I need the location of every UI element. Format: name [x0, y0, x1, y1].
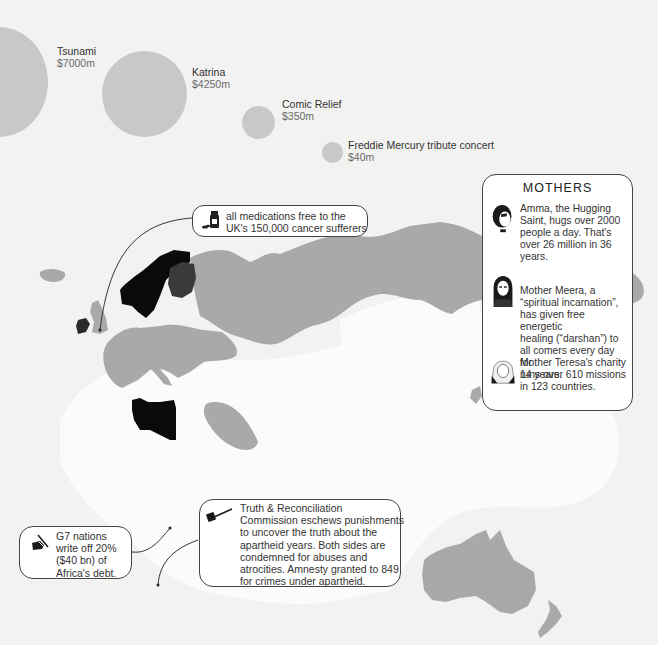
bubble-label-katrina: Katrina $4250m: [192, 66, 230, 90]
uk-connector-dot: [99, 329, 102, 332]
bubble-value: $7000m: [57, 57, 96, 69]
bubble-value: $40m: [348, 151, 494, 163]
mother-meera-portrait-icon: [489, 275, 517, 307]
bubble-label-tsunami: Tsunami $7000m: [57, 45, 96, 69]
mothers-panel: MOTHERS Amma, the Hugging Saint, hugs ov…: [482, 174, 633, 411]
bubble-label-comic-relief: Comic Relief $350m: [282, 98, 342, 122]
g7-connector-dot: [169, 527, 172, 530]
bubble-comic-relief: [242, 106, 275, 139]
uk-medication-text: all medications free to the UK's 150,000…: [226, 210, 367, 234]
bubble-freddie-mercury: [322, 142, 343, 163]
truth-connector-dot: [157, 584, 160, 587]
truth-reconciliation-callout: Truth & Reconciliation Commission eschew…: [199, 499, 401, 587]
mother-teresa-portrait-icon: [489, 355, 517, 387]
gavel-icon: [206, 507, 234, 523]
mother-text: Mother Teresa's charity runs over 610 mi…: [520, 357, 626, 393]
iceland: [40, 269, 66, 282]
bubble-value: $350m: [282, 110, 342, 122]
bubble-name: Katrina: [192, 66, 225, 78]
uk-medication-callout: all medications free to the UK's 150,000…: [192, 205, 368, 237]
medicine-bottle-icon: [201, 210, 221, 232]
mother-text: Amma, the Hugging Saint, hugs over 2000 …: [520, 203, 620, 263]
bubble-name: Comic Relief: [282, 98, 342, 110]
signing-hand-icon: [30, 533, 52, 553]
bubble-katrina: [102, 51, 187, 137]
finland: [168, 262, 196, 298]
ireland: [76, 318, 90, 334]
truth-reconciliation-text: Truth & Reconciliation Commission eschew…: [240, 502, 404, 587]
australia: [422, 530, 536, 614]
bubble-label-freddie-mercury: Freddie Mercury tribute concert $40m: [348, 139, 494, 163]
bubble-value: $4250m: [192, 78, 230, 90]
amma-portrait-icon: [489, 203, 517, 235]
mothers-title: MOTHERS: [483, 181, 632, 195]
bubble-name: Freddie Mercury tribute concert: [348, 139, 494, 151]
bubble-name: Tsunami: [57, 45, 96, 57]
g7-debt-text: G7 nations write off 20% ($40 bn) of Afr…: [56, 530, 117, 579]
g7-debt-callout: G7 nations write off 20% ($40 bn) of Afr…: [19, 526, 132, 579]
new-zealand: [538, 600, 562, 638]
